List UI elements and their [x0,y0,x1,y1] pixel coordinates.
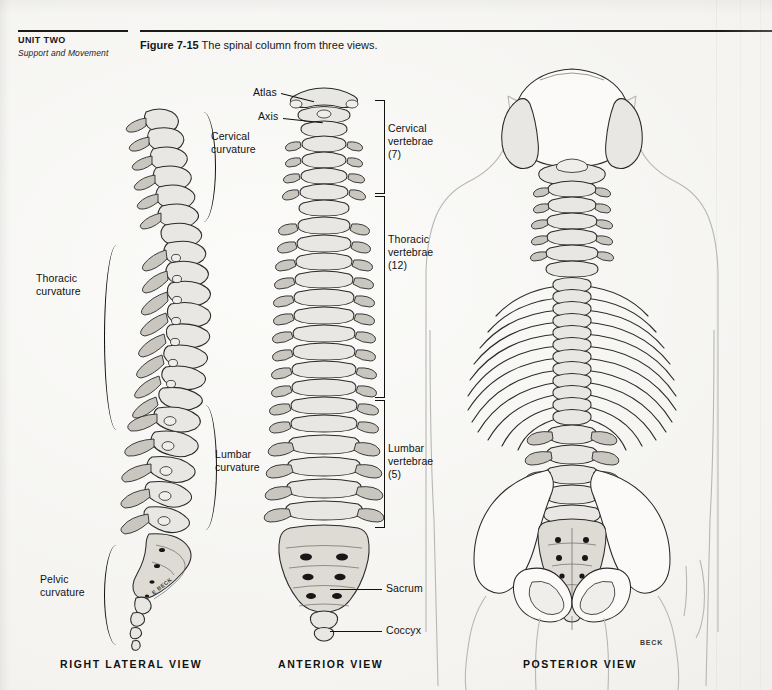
thoracic-vertebrae-bracket [375,196,385,398]
label-pelvic-curvature: Pelvic curvature [40,573,85,599]
label-axis: Axis [258,110,278,123]
unit-subtitle: Support and Movement [18,48,108,58]
view-caption-anterior: ANTERIOR VIEW [278,658,383,670]
label-cervical-vertebrae: Cervical vertebrae (7) [388,122,433,161]
figure-caption: Figure 7-15 The spinal column from three… [140,38,380,53]
label-coccyx: Coccyx [386,624,421,637]
lumbar-vertebrae-bracket [375,400,385,528]
cervical-vertebrae-bracket [375,100,385,194]
figure-caption-text: The spinal column from three views. [202,39,378,51]
header-rule-left [18,30,128,32]
scan-artifact [760,0,761,690]
unit-label: UNIT TWO [18,35,66,45]
pelvic-curvature-bracket [104,545,127,645]
label-thoracic-vertebrae: Thoracic vertebrae (12) [388,233,433,272]
artist-signature: BECK [640,639,663,646]
label-cervical-curvature: Cervical curvature [211,130,256,156]
label-lumbar-vertebrae: Lumbar vertebrae (5) [388,442,433,481]
sacrum-leader-line [330,589,382,590]
label-atlas: Atlas [253,86,277,99]
label-sacrum: Sacrum [386,582,423,595]
figure-number: Figure 7-15 [140,39,199,51]
view-caption-posterior: POSTERIOR VIEW [523,658,637,670]
scan-artifact [740,0,741,690]
view-caption-lateral: RIGHT LATERAL VIEW [60,658,202,670]
coccyx-leader-line [330,631,382,632]
scan-artifact [716,0,717,690]
header-rule-right [140,30,772,32]
label-lumbar-curvature: Lumbar curvature [215,448,260,474]
label-thoracic-curvature: Thoracic curvature [36,272,81,298]
thoracic-curvature-bracket [104,245,127,430]
